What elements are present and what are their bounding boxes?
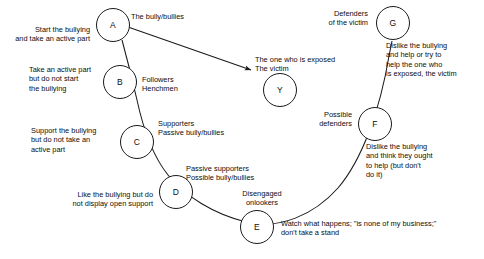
- node-f-role-label: Possible defenders: [298, 110, 352, 129]
- node-y-letter: Y: [277, 85, 283, 95]
- node-f[interactable]: F: [358, 107, 392, 141]
- node-f-description: Dislike the bullying and think they ough…: [366, 142, 433, 179]
- node-d-description: Like the bullying but do not display ope…: [45, 190, 153, 209]
- node-d-role-label: Passive supporters Possible bully/bullie…: [186, 164, 254, 183]
- node-c-role-label: Supporters Passive bully/bullies: [158, 119, 224, 138]
- node-g-letter: G: [390, 18, 397, 28]
- bullying-circle-diagram: A B C D E F G Y The bully/bullies Follow…: [0, 0, 484, 259]
- node-a[interactable]: A: [96, 8, 130, 42]
- node-a-letter: A: [110, 20, 116, 30]
- node-g-description: Dislike the bullying and help or try to …: [386, 41, 457, 78]
- node-a-description: Start the bullying and take an active pa…: [8, 25, 90, 44]
- node-b[interactable]: B: [103, 65, 137, 99]
- node-g[interactable]: G: [376, 6, 410, 40]
- node-e[interactable]: E: [240, 210, 274, 244]
- node-b-role-label: Followers Henchmen: [142, 75, 178, 94]
- node-f-letter: F: [372, 119, 377, 129]
- node-b-letter: B: [117, 77, 123, 87]
- node-d-letter: D: [173, 187, 179, 197]
- node-c-description: Support the bullying but do not take an …: [31, 126, 96, 154]
- node-b-description: Take an active part but do not start the…: [29, 65, 91, 93]
- node-c[interactable]: C: [120, 125, 154, 159]
- node-e-description: Watch what happens; "is none of my busin…: [281, 219, 436, 238]
- node-g-role-label: Defenders of the victim: [306, 9, 368, 28]
- node-y-role-label: The one who is exposed The victim: [255, 55, 335, 74]
- node-y-victim[interactable]: Y: [263, 73, 297, 107]
- arrow-bully-to-victim: [128, 27, 251, 70]
- node-a-role-label: The bully/bullies: [131, 12, 184, 21]
- node-c-letter: C: [134, 137, 140, 147]
- node-e-role-label: Disengaged onlookers: [228, 189, 296, 208]
- node-e-letter: E: [254, 222, 260, 232]
